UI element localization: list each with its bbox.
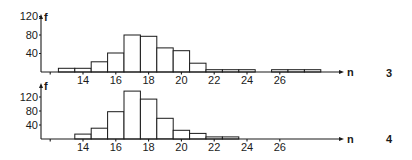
y-axis-label: f: [44, 11, 48, 23]
histogram-figure: 408012014161820222426fn3 408012014161820…: [0, 0, 412, 160]
y-tick-label: 80: [26, 29, 38, 41]
x-tick-label: 16: [110, 141, 122, 153]
histogram-bar: [108, 53, 124, 72]
x-tick-label: 26: [274, 74, 286, 86]
y-axis-arrow-icon: [39, 83, 43, 88]
y-tick-label: 120: [20, 91, 38, 103]
histogram-bar: [190, 133, 206, 139]
histogram-bar: [173, 130, 189, 139]
x-axis-label: n: [347, 133, 354, 145]
histogram-bar: [157, 48, 173, 72]
x-tick-label: 18: [142, 141, 154, 153]
x-tick-label: 24: [241, 141, 253, 153]
x-tick-label: 14: [77, 141, 89, 153]
histogram-bar: [75, 68, 91, 72]
histogram-bar: [157, 118, 173, 139]
histogram-bar: [190, 63, 206, 72]
x-axis-arrow-icon: [339, 70, 344, 74]
x-tick-label: 18: [142, 74, 154, 86]
y-tick-label: 80: [26, 105, 38, 117]
histogram-panel-3: 408012014161820222426fn3: [20, 10, 392, 86]
x-tick-label: 22: [208, 74, 220, 86]
histogram-bar: [58, 68, 74, 72]
histogram-bar: [140, 99, 156, 139]
histogram-bar: [124, 91, 140, 139]
y-tick-label: 40: [26, 47, 38, 59]
histogram-panel-4: 408012014161820222426fn4: [20, 80, 393, 153]
y-tick-label: 120: [20, 10, 38, 22]
x-axis-label: n: [347, 66, 354, 78]
x-tick-label: 22: [208, 141, 220, 153]
y-axis-label: f: [44, 80, 48, 92]
histogram-bar: [91, 128, 107, 139]
histogram-bar: [173, 51, 189, 72]
panel-label: 3: [386, 67, 392, 79]
histogram-bar: [75, 134, 91, 139]
x-tick-label: 26: [274, 141, 286, 153]
x-axis-arrow-icon: [339, 137, 344, 141]
x-tick-label: 16: [110, 74, 122, 86]
y-tick-label: 40: [26, 119, 38, 131]
histogram-bar: [140, 36, 156, 72]
panel-label: 4: [386, 133, 393, 145]
x-tick-label: 20: [175, 74, 187, 86]
histogram-bar: [91, 62, 107, 72]
histogram-bar: [108, 112, 124, 139]
x-tick-label: 14: [77, 74, 89, 86]
x-tick-label: 24: [241, 74, 253, 86]
histogram-bar: [124, 35, 140, 72]
x-tick-label: 20: [175, 141, 187, 153]
